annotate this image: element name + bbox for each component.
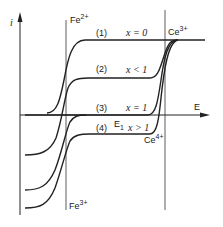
curve-3-lower [25, 115, 86, 190]
ce3-label: Ce3+ [168, 25, 188, 37]
fe2-label: Fe2+ [70, 13, 89, 25]
fe3-label: Fe3+ [69, 199, 88, 211]
curve-1-id: (1) [96, 28, 107, 38]
curve-3-condition: x = 1 [125, 102, 147, 113]
curve-1-condition: x = 0 [125, 27, 147, 38]
e1-label: E1 [114, 119, 124, 131]
curve-3-id: (3) [96, 103, 107, 113]
curve-4-id: (4) [96, 123, 107, 133]
curve-2-condition: x < 1 [125, 64, 147, 75]
y-axis-label: i [10, 17, 13, 28]
x-axis-label: E [194, 102, 200, 112]
curve-2-id: (2) [96, 64, 107, 74]
voltammetry-diagram: i E Fe2+ Ce3+ Fe3+ Ce4+ (1) x = 0 (2) x … [0, 0, 223, 227]
curve-4-condition: x > 1 [127, 122, 149, 133]
x-axis-arrow-icon [200, 113, 210, 118]
ce4-label: Ce4+ [144, 133, 164, 145]
y-axis-arrow-icon [18, 12, 23, 22]
